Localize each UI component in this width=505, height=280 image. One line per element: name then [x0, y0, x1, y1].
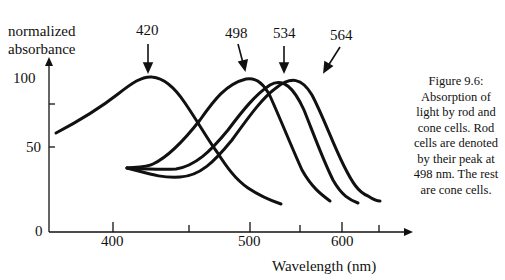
curve-498 — [127, 79, 330, 201]
arrow-420-icon — [144, 63, 152, 72]
axes — [49, 64, 408, 232]
x-axis-arrow-icon — [404, 228, 413, 236]
y-axis-arrow-icon — [45, 57, 53, 66]
peak-arrows — [144, 44, 340, 72]
curve-420 — [56, 77, 281, 204]
arrow-564-icon — [324, 62, 332, 72]
chart-plot — [0, 0, 505, 280]
arrow-498-icon — [239, 60, 247, 70]
arrow-534-icon — [280, 63, 288, 72]
absorption-curves — [56, 77, 380, 204]
